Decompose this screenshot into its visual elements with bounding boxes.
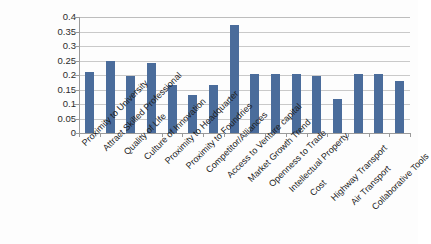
bar (230, 25, 239, 133)
y-axis-tick-mark (74, 119, 79, 120)
bar (250, 74, 259, 133)
y-axis-tick-mark (74, 104, 79, 105)
bar (85, 72, 94, 133)
x-axis-tick-mark (369, 133, 370, 137)
x-axis-tick-mark (79, 133, 80, 137)
y-axis-tick-mark (74, 90, 79, 91)
y-axis-tick-label: 0 (0, 128, 76, 138)
x-axis-tick-mark (203, 133, 204, 137)
x-axis-category-label: Collaborative Tools (371, 152, 431, 212)
x-axis-tick-mark (224, 133, 225, 137)
x-axis-tick-mark (327, 133, 328, 137)
x-axis-tick-mark (162, 133, 163, 137)
x-axis-tick-mark (245, 133, 246, 137)
x-axis-tick-mark (141, 133, 142, 137)
bar (126, 76, 135, 133)
x-axis-tick-mark (120, 133, 121, 137)
x-axis-category-label: Cost (309, 179, 328, 198)
y-axis-tick-mark (74, 32, 79, 33)
y-axis-tick-label: 0.2 (0, 70, 76, 80)
y-axis-tick-label: 0.25 (0, 56, 76, 66)
y-axis-tick-label: 0.15 (0, 85, 76, 95)
bar (354, 74, 363, 133)
x-axis-tick-mark (265, 133, 266, 137)
x-axis-tick-mark (182, 133, 183, 137)
x-axis-category-label: Air Transport (350, 164, 393, 207)
bar (168, 85, 177, 133)
bar (292, 74, 301, 133)
bar (209, 85, 218, 133)
x-axis-tick-mark (348, 133, 349, 137)
bar (147, 63, 156, 133)
y-axis-tick-label: 0.4 (0, 12, 76, 22)
x-axis-tick-mark (307, 133, 308, 137)
bar (395, 81, 404, 133)
y-axis-tick-mark (74, 17, 79, 18)
x-axis-category-label: Highway Transport (329, 143, 388, 202)
bar (271, 74, 280, 133)
x-axis-tick-mark (410, 133, 411, 137)
bar (188, 95, 197, 133)
y-axis-tick-mark (74, 61, 79, 62)
bar-series (79, 17, 410, 133)
y-axis-tick-label: 0.05 (0, 114, 76, 124)
y-axis-tick-label: 0.1 (0, 99, 76, 109)
y-axis-tick-label: 0.35 (0, 27, 76, 37)
y-axis-tick-label: 0.3 (0, 41, 76, 51)
bar (106, 61, 115, 133)
bar (333, 99, 342, 133)
y-axis-tick-mark (74, 46, 79, 47)
x-axis-tick-mark (286, 133, 287, 137)
x-axis-tick-mark (389, 133, 390, 137)
bar (312, 76, 321, 133)
y-axis-tick-mark (74, 75, 79, 76)
x-axis-tick-mark (100, 133, 101, 137)
bar (374, 74, 383, 133)
x-axis-category-label: Openness to Trade (267, 128, 328, 189)
y-axis-tick-labels: 00.050.10.150.20.250.30.350.4 (0, 0, 76, 244)
x-axis-category-label: Intellectual Property (288, 131, 351, 194)
